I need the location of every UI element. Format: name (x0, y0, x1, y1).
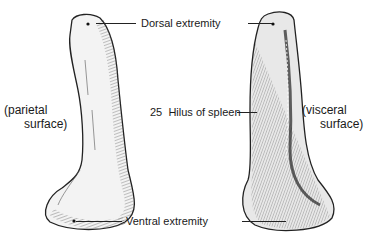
hilus-label: 25 Hilus of spleen (150, 106, 241, 118)
ventral-leader-line-right (242, 221, 286, 222)
dorsal-label-text: Dorsal extremity (141, 17, 220, 29)
visceral-surface-label: (visceral surface) (302, 103, 363, 131)
visceral-line1: (visceral (302, 103, 363, 117)
visceral-line2: surface) (302, 117, 363, 131)
ventral-leader-line (76, 221, 122, 222)
ventral-label-text: Ventral extremity (126, 215, 208, 227)
parietal-line2: surface) (4, 117, 67, 131)
ventral-extremity-label: Ventral extremity (126, 215, 208, 227)
dorsal-extremity-label: Dorsal extremity (141, 17, 220, 29)
parietal-surface-label: (parietal surface) (4, 103, 67, 131)
hilus-label-text: Hilus of spleen (168, 106, 240, 118)
dorsal-leader-line (96, 23, 136, 24)
parietal-line1: (parietal (4, 103, 67, 117)
hilus-number: 25 (150, 106, 162, 118)
dorsal-leader-line-right (248, 23, 272, 24)
